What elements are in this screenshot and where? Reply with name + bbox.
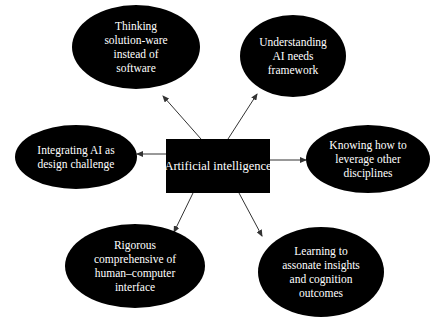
ai-mind-map-diagram: Thinkingsolution-wareinstead ofsoftwareU… (0, 0, 443, 331)
node-ellipse (65, 224, 205, 308)
node-label-line: Rigorous (114, 239, 157, 252)
node-integrating: Integrating AI asdesign challenge (15, 125, 137, 189)
node-ellipse (258, 227, 384, 317)
node-label-line: Knowing how to (329, 139, 407, 152)
arrow-to-learning (239, 193, 262, 236)
center-label: Artificial intelligence (164, 159, 272, 173)
node-label-line: assonate insights (282, 259, 360, 272)
node-label-line: outcomes (299, 287, 344, 299)
arrow-to-rigorous (174, 193, 193, 232)
node-rigorous: Rigorouscomprehensive ofhuman–computerin… (65, 224, 205, 308)
central-concept: Artificial intelligence (164, 139, 272, 193)
node-label-line: AI needs (272, 50, 314, 62)
node-label-line: design challenge (38, 158, 115, 171)
node-label-line: software (116, 62, 156, 74)
node-label-line: disciplines (343, 167, 393, 180)
node-label-line: solution-ware (104, 34, 167, 46)
node-label-line: Understanding (259, 36, 327, 49)
node-thinking: Thinkingsolution-wareinstead ofsoftware (72, 5, 200, 89)
node-label-line: comprehensive of (94, 253, 176, 266)
node-label-line: Integrating AI as (37, 144, 115, 157)
node-label-line: instead of (113, 48, 158, 60)
node-label-line: Learning to (294, 245, 348, 258)
node-label-line: human–computer (95, 267, 176, 280)
node-label-line: and cognition (290, 273, 353, 286)
node-label-line: interface (115, 281, 155, 293)
node-label-line: framework (268, 64, 319, 76)
node-ellipse (72, 5, 200, 89)
node-understanding: UnderstandingAI needsframework (240, 15, 346, 97)
arrow-to-understanding (228, 94, 257, 139)
arrow-to-thinking (163, 96, 201, 139)
node-label-line: Thinking (115, 20, 157, 33)
node-label-line: leverage other (335, 153, 401, 166)
node-knowing: Knowing how toleverage otherdisciplines (306, 125, 430, 193)
node-ellipse (15, 125, 137, 189)
node-learning: Learning toassonate insightsand cognitio… (258, 227, 384, 317)
